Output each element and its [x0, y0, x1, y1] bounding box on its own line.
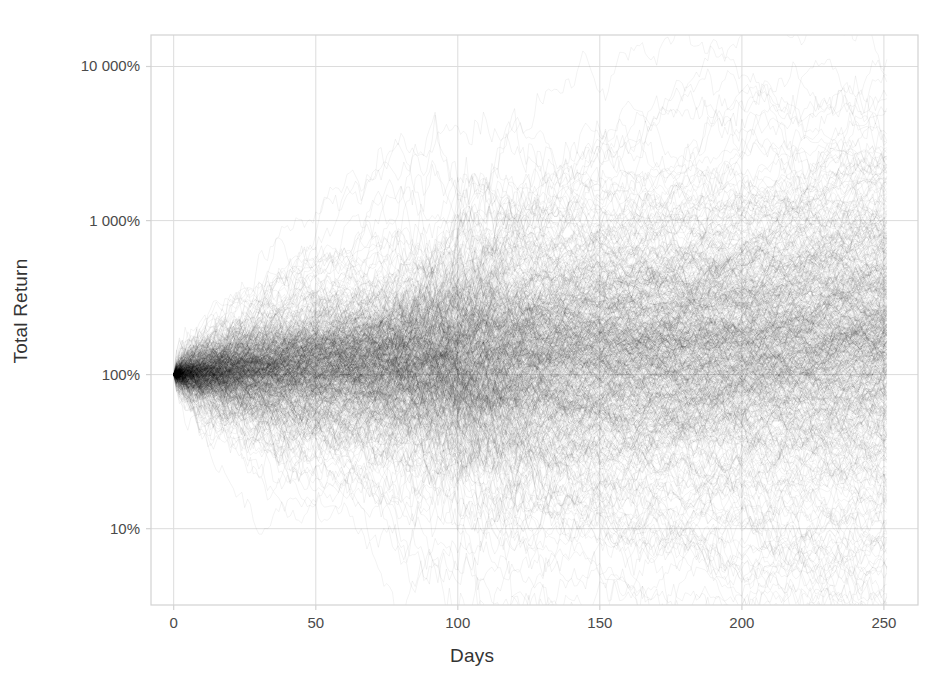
- x-tick-label: 0: [134, 614, 214, 631]
- x-tick-label: 200: [702, 614, 782, 631]
- simulation-paths: [174, 23, 887, 616]
- x-tick-label: 150: [560, 614, 640, 631]
- plot-canvas: [0, 0, 952, 683]
- x-tick-label: 250: [844, 614, 924, 631]
- x-tick-label: 100: [418, 614, 498, 631]
- y-tick-label: 1 000%: [36, 212, 140, 229]
- chart-figure: Total Return Days 10 000%1 000%100%10% 0…: [0, 0, 952, 683]
- y-tick-label: 10 000%: [36, 57, 140, 74]
- x-tick-label: 50: [276, 614, 356, 631]
- y-axis-title: Total Return: [10, 246, 32, 376]
- x-axis-title: Days: [450, 645, 494, 667]
- y-tick-label: 100%: [36, 366, 140, 383]
- y-tick-label: 10%: [36, 520, 140, 537]
